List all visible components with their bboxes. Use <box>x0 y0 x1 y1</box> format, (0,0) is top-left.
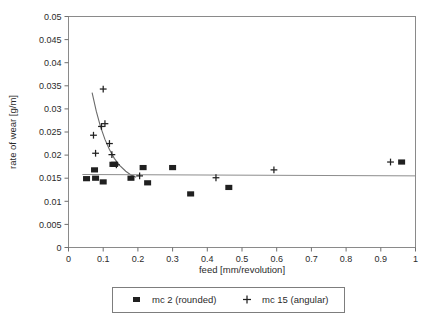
y-tick-label: 0.01 <box>44 197 62 207</box>
data-point-square <box>398 159 405 164</box>
data-point-plus <box>92 150 99 157</box>
x-tick-label: 0.3 <box>166 254 179 264</box>
x-tick-label: 1 <box>413 254 418 264</box>
data-point-plus <box>108 151 115 158</box>
data-point-plus <box>100 86 107 93</box>
y-tick-label: 0.025 <box>39 127 62 137</box>
data-points <box>83 86 405 197</box>
x-axis-ticks <box>69 248 416 252</box>
y-tick-label: 0.05 <box>44 12 62 22</box>
y-tick-label: 0.035 <box>39 81 62 91</box>
data-point-square <box>187 191 194 196</box>
y-tick-label: 0.005 <box>39 220 62 230</box>
legend-label-mc15: mc 15 (angular) <box>262 294 329 305</box>
fit-curves <box>82 93 415 178</box>
series-1 <box>83 159 405 196</box>
legend-marker-square <box>133 297 140 302</box>
data-point-square <box>225 185 232 190</box>
data-point-square <box>127 176 134 181</box>
y-tick-label: 0.04 <box>44 58 62 68</box>
legend: mc 2 (rounded) mc 15 (angular) <box>113 288 345 313</box>
x-axis-tick-labels: 00.10.20.30.40.50.60.70.80.91 <box>66 254 418 264</box>
x-tick-label: 0.5 <box>236 254 249 264</box>
y-tick-label: 0.02 <box>44 150 62 160</box>
data-point-square <box>92 176 99 181</box>
x-tick-label: 0.6 <box>270 254 283 264</box>
x-tick-label: 0.2 <box>132 254 145 264</box>
legend-label-mc2: mc 2 (rounded) <box>152 294 216 305</box>
y-tick-label: 0.045 <box>39 35 62 45</box>
data-point-square <box>91 167 98 172</box>
scatter-plot-svg: 00.0050.010.0150.020.0250.030.0350.040.0… <box>0 0 430 324</box>
data-point-plus <box>90 132 97 139</box>
series-2 <box>90 86 394 182</box>
data-point-plus <box>136 172 143 179</box>
data-point-square <box>169 165 176 170</box>
x-tick-label: 0.8 <box>340 254 353 264</box>
data-point-square <box>140 165 147 170</box>
x-tick-label: 0.9 <box>375 254 388 264</box>
data-point-plus <box>387 159 394 166</box>
x-tick-label: 0.4 <box>201 254 214 264</box>
data-point-square <box>100 179 107 184</box>
x-tick-label: 0.7 <box>305 254 318 264</box>
x-axis-title: feed [mm/revolution] <box>199 264 285 275</box>
y-tick-label: 0.03 <box>44 104 62 114</box>
data-point-square <box>144 180 151 185</box>
y-axis-ticks <box>65 17 69 248</box>
y-axis-title: rate of wear [g/m] <box>7 95 18 169</box>
y-axis-tick-labels: 00.0050.010.0150.020.0250.030.0350.040.0… <box>39 12 62 253</box>
y-tick-label: 0.015 <box>39 173 62 183</box>
data-point-plus <box>271 166 278 173</box>
data-point-square <box>83 176 90 181</box>
x-tick-label: 0.1 <box>97 254 110 264</box>
chart-figure: 00.0050.010.0150.020.0250.030.0350.040.0… <box>0 0 430 324</box>
y-tick-label: 0 <box>56 243 61 253</box>
data-point-plus <box>106 140 113 147</box>
x-tick-label: 0 <box>66 254 71 264</box>
plot-frame <box>69 17 416 248</box>
